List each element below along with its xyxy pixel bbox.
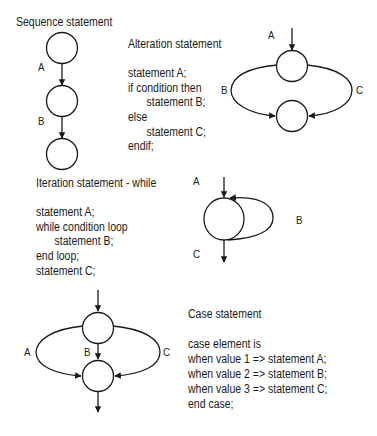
alteration-title: Alteration statement (128, 37, 221, 52)
sequence-node-3 (47, 139, 78, 170)
alteration-label-b: B (221, 84, 228, 96)
iteration-code-line-5: statement C; (36, 264, 96, 279)
sequence-node-2 (47, 86, 78, 117)
iteration-label-b: B (296, 214, 303, 226)
alteration-code-line-3: statement B; (128, 95, 205, 110)
case-label-b: B (84, 346, 91, 358)
sequence-label-b: B (38, 115, 45, 127)
alteration-node-bottom (277, 101, 308, 132)
alteration-code-line-2: if condition then (128, 81, 202, 96)
iteration-code-line-2: while condition loop (36, 220, 128, 235)
case-code-line-5: end case; (188, 397, 234, 412)
alteration-code-line-6: endif; (128, 139, 154, 154)
case-diagram (36, 290, 160, 412)
case-node-top (83, 313, 114, 344)
case-arc-c (113, 326, 160, 376)
iteration-code-line-1: statement A; (36, 205, 94, 220)
case-arc-a (36, 326, 83, 376)
alteration-code-line-4: else (128, 110, 147, 125)
sequence-title: Sequence statement (16, 15, 112, 30)
iteration-label-a: A (193, 175, 200, 187)
alteration-label-a: A (268, 29, 275, 41)
alteration-label-c: C (356, 84, 363, 96)
alteration-code-line-1: statement A; (128, 66, 186, 81)
case-code-line-4: when value 3 => statement C; (188, 382, 328, 397)
iteration-diagram (204, 177, 273, 262)
iteration-label-c: C (193, 248, 200, 260)
alteration-diagram (231, 28, 352, 132)
alteration-arc-c (307, 65, 352, 116)
alteration-arc-b (231, 65, 277, 116)
iteration-loop-arc (228, 198, 273, 240)
iteration-code-line-3: statement B; (36, 234, 113, 249)
case-code-line-2: when value 1 => statement A; (188, 352, 326, 367)
iteration-code-line-4: end loop; (36, 249, 79, 264)
sequence-label-a: A (38, 61, 45, 73)
sequence-diagram (47, 33, 78, 170)
sequence-node-1 (47, 33, 78, 64)
case-code-line-1: case element is (188, 337, 261, 352)
case-node-bottom (83, 361, 114, 392)
iteration-node (204, 198, 244, 240)
case-code-line-3: when value 2 => statement B; (188, 367, 327, 382)
alteration-node-top (277, 51, 308, 82)
case-label-a: A (24, 346, 31, 358)
alteration-code-line-5: statement C; (128, 125, 206, 140)
iteration-title: Iteration statement - while (36, 176, 156, 191)
case-label-c: C (163, 346, 170, 358)
case-title: Case statement (188, 307, 262, 322)
